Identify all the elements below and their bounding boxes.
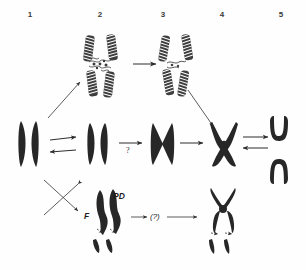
chromosome-column-3-middle (151, 123, 175, 165)
double-arrow-col4-to-col5 (243, 137, 268, 148)
chromosome-column-4-middle (210, 122, 238, 167)
chromosome-column-5-upper (270, 116, 288, 141)
double-arrow-diagonal-col1-to-bottom (44, 180, 78, 215)
uncertainty-label: (?) (150, 212, 160, 221)
arrow-diagonal-col3-top-to-col4 (188, 90, 213, 126)
coiled-chromosome-column-2 (83, 34, 118, 98)
chromosome-illustrations (0, 0, 306, 270)
chromatid-pair-column-1 (18, 121, 38, 167)
pd-label: PD (113, 191, 125, 201)
chromosome-bottom-right (209, 188, 236, 254)
figure-canvas: 1 2 3 4 5 (0, 0, 306, 270)
f-label: F (84, 211, 89, 221)
double-arrow-col1-to-col2 (50, 137, 76, 152)
question-mark-middle: ? (126, 146, 130, 155)
arrow-diagonal-col1-to-col2-top (48, 82, 80, 118)
chromosome-column-5-lower (270, 159, 288, 184)
chromatid-pair-column-2 (87, 123, 107, 165)
coiled-chromosome-column-3 (158, 34, 194, 97)
